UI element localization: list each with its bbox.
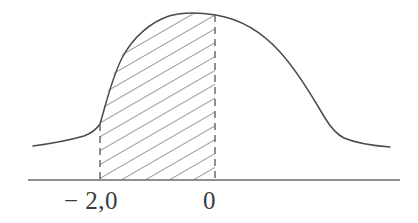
axis-tick-label-zero: 0 bbox=[203, 188, 216, 213]
hatched-area bbox=[96, 10, 220, 182]
axis-tick-label-neg-two: − 2,0 bbox=[64, 188, 118, 213]
distribution-figure: − 2,0 0 bbox=[0, 0, 418, 223]
